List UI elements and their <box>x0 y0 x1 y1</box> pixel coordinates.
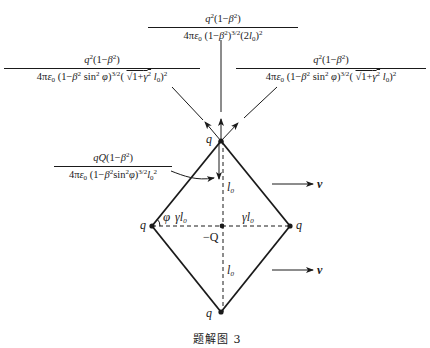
force-label-upper-right: q2(1−β2) 4πε0 (1−β2 sin2 φ)3/2( √1+γ2 l0… <box>236 55 426 82</box>
angle-arc <box>157 219 160 226</box>
dim-l0-upper: l₀ <box>227 181 235 193</box>
charge-label-top: q <box>206 133 212 145</box>
dim-gamma-l0-right: γl₀ <box>242 211 254 223</box>
force-label-attraction: qQ(1−β2) 4πε0 (1−β2sin2φ)3/2l02 <box>54 153 172 180</box>
velocity-label-upper: v <box>317 178 322 190</box>
figure-caption: 题解图 3 <box>193 330 242 346</box>
charge-label-left: q <box>140 219 146 231</box>
force-label-top: q2(1−β2) 4πε0 (1−β2)3/2(2l0)2 <box>148 14 298 41</box>
velocity-arrows <box>272 184 313 270</box>
velocity-label-lower: v <box>317 264 322 276</box>
force-arrows-top <box>205 119 238 179</box>
charge-label-bottom: q <box>206 307 212 319</box>
charge-label-right: q <box>296 219 302 231</box>
angle-phi-label: φ <box>163 210 170 223</box>
force-label-upper-left: q2(1−β2) 4πε0 (1−β2 sin2 φ)3/2( √1+γ2 l0… <box>4 55 200 82</box>
dim-l0-lower: l₀ <box>227 264 235 276</box>
dim-gamma-l0-left: γl₀ <box>175 211 187 223</box>
charge-label-center: −Q <box>203 231 218 243</box>
